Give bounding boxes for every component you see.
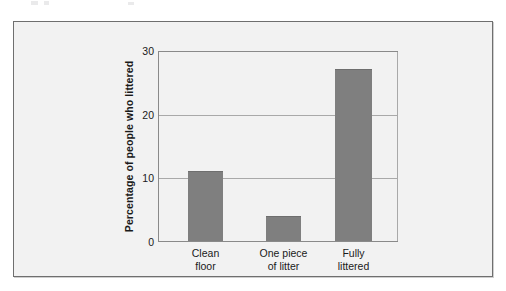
gridline-30 [159, 51, 398, 52]
y-tick-label-10: 10 [142, 173, 154, 184]
x-label-line: One piece [260, 247, 308, 260]
bar-fully-littered[interactable] [335, 69, 372, 241]
x-label-fully-littered: Fully littered [338, 247, 370, 272]
x-label-line: floor [192, 260, 219, 273]
figure-frame: Percentage of people who littered 30 20 … [13, 21, 493, 277]
y-axis-title: Percentage of people who littered [121, 51, 137, 242]
x-label-line: of litter [260, 260, 308, 273]
x-label-line: littered [338, 260, 370, 273]
plot-area: 30 20 10 0 Clean floor One piece of litt… [158, 51, 398, 242]
x-label-one-piece-of-litter: One piece of litter [260, 247, 308, 272]
scan-artifact [31, 1, 38, 5]
y-tick-label-30: 30 [142, 46, 154, 57]
plot-right-edge [397, 51, 398, 241]
scan-artifact [128, 2, 134, 5]
y-tick-label-20: 20 [142, 109, 154, 120]
chart-page: Percentage of people who littered 30 20 … [0, 0, 506, 291]
x-label-line: Clean [192, 247, 219, 260]
bar-clean-floor[interactable] [188, 171, 223, 241]
scan-artifact [44, 1, 49, 5]
bar-one-piece-of-litter[interactable] [266, 216, 301, 241]
y-tick-label-0: 0 [148, 237, 154, 248]
x-label-clean-floor: Clean floor [192, 247, 219, 272]
x-label-line: Fully [338, 247, 370, 260]
